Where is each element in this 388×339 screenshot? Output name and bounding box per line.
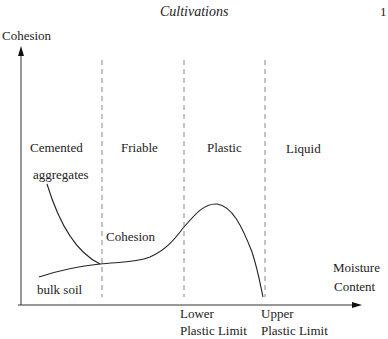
zone-label-friable: Friable — [121, 140, 158, 155]
upper-limit-label-line1: Upper — [261, 306, 294, 321]
lower-limit-label-line1: Lower — [180, 306, 214, 321]
zone-label-plastic: Plastic — [207, 140, 242, 155]
curve-label-cohesion: Cohesion — [106, 229, 155, 244]
zone-label-liquid: Liquid — [286, 141, 321, 156]
x-axis-label-line1: Moisture — [333, 260, 380, 275]
x-axis-arrow-icon — [352, 302, 362, 308]
zone-label-cemented: Cemented — [30, 140, 83, 155]
aggregates-curve — [47, 184, 100, 264]
curve-label-bulk-soil: bulk soil — [37, 282, 82, 297]
x-axis-label-line2: Content — [334, 279, 375, 294]
y-axis-label: Cohesion — [2, 28, 51, 43]
zone-label-aggregates: aggregates — [33, 167, 89, 182]
y-axis-arrow-icon — [18, 46, 24, 56]
lower-limit-label-line2: Plastic Limit — [180, 323, 247, 338]
upper-limit-label-line2: Plastic Limit — [261, 323, 328, 338]
